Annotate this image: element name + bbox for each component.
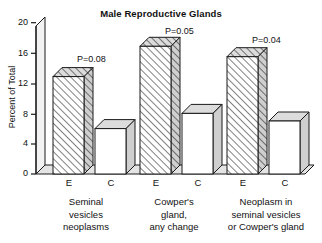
category-label-group-1: Seminal vesicles neoplasms <box>36 196 136 234</box>
y-axis <box>31 17 45 174</box>
x-tick-label-e-1: E <box>57 177 81 188</box>
y-tick-label-0: 0 <box>6 168 28 178</box>
x-tick-label-c-2: C <box>186 177 210 188</box>
bar-e-1 <box>53 68 93 174</box>
chart-title: Male Reproductive Glands <box>0 8 322 19</box>
bar-e-3 <box>227 48 267 174</box>
pvalue-label-group-2: P=0.05 <box>165 26 194 36</box>
y-tick-label-12: 12 <box>6 78 28 88</box>
x-tick-label-e-3: E <box>231 177 255 188</box>
x-tick-label-c-1: C <box>99 177 123 188</box>
category-label-group-3-line-1: Neoplasm in <box>208 196 322 209</box>
category-label-group-1-line-1: Seminal <box>36 196 136 209</box>
y-axis-title: Percent of Total <box>7 57 17 137</box>
bar-c-2 <box>182 104 222 174</box>
bar-c-1 <box>95 120 135 174</box>
x-tick-label-c-3: C <box>273 177 297 188</box>
category-label-group-1-line-3: neoplasms <box>36 221 136 234</box>
y-tick-label-16: 16 <box>6 48 28 58</box>
category-label-group-3-line-3: or Cowper's gland <box>208 221 322 234</box>
pvalue-label-group-3: P=0.04 <box>252 35 281 45</box>
category-label-group-3: Neoplasm in seminal vesicles or Cowper's… <box>208 196 322 234</box>
bar-group-3 <box>227 48 309 174</box>
bar-e-2 <box>140 37 180 174</box>
pvalue-label-group-1: P=0.08 <box>77 54 106 64</box>
y-tick-label-4: 4 <box>6 138 28 148</box>
bar-c-3 <box>269 112 309 174</box>
y-tick-label-8: 8 <box>6 109 28 119</box>
bar-chart: Male Reproductive Glands Percent of Tota… <box>0 0 322 243</box>
bar-group-1 <box>53 68 135 174</box>
category-label-group-3-line-2: seminal vesicles <box>208 209 322 222</box>
bar-group-2 <box>140 37 222 174</box>
x-tick-label-e-2: E <box>144 177 168 188</box>
y-tick-label-20: 20 <box>6 17 28 27</box>
category-label-group-1-line-2: vesicles <box>36 209 136 222</box>
